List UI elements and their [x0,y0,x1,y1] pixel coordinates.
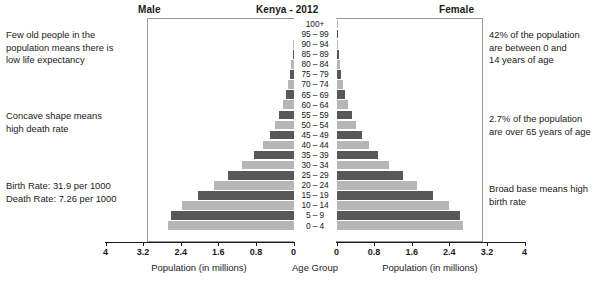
bar-male-6569 [286,90,294,99]
male-side-label: Male [138,4,161,15]
bar-female-6569 [337,90,345,99]
female-axis-line [336,242,525,243]
bar-row [148,90,294,100]
age-group-label: 100+ [294,19,336,29]
bar-row [337,221,483,231]
bar-row [148,180,294,190]
bar-male-3539 [254,151,294,160]
annotation-life-expectancy: Few old people in thepopulation means th… [6,29,146,67]
bar-female-8589 [337,50,339,59]
bar-row [148,59,294,69]
age-group-label: 0 – 4 [294,221,336,231]
age-group-label: 5 – 9 [294,210,336,220]
axis-tick-label: 4 [522,247,527,257]
annotation-line: Broad base means high [489,183,593,196]
age-group-label: 85 – 89 [294,49,336,59]
age-group-label: 65 – 69 [294,90,336,100]
bar-male-5054 [275,121,294,130]
annotation-broad-base: Broad base means highbirth rate [489,183,593,208]
age-group-label: 25 – 29 [294,170,336,180]
bar-male-4549 [270,131,294,140]
annotation-birth-death-rates: Birth Rate: 31.9 per 1000Death Rate: 7.2… [6,180,152,205]
bar-female-4044 [337,141,369,150]
bar-male-5559 [279,111,294,120]
bar-male-1519 [198,191,294,200]
bar-row [337,190,483,200]
axis-tick-label: 3.2 [481,247,494,257]
bar-row [337,180,483,190]
population-pyramid-figure: Male Kenya - 2012 Female 100+95 – 9990 –… [0,0,595,286]
bar-male-6064 [283,100,294,109]
annotation-line: birth rate [489,196,593,209]
bar-row [148,200,294,210]
bar-row [148,29,294,39]
axis-tick-label: 1.6 [405,247,418,257]
female-axis-caption: Population (in millions) [382,262,478,273]
center-axis-caption: Age Group [292,262,338,273]
bar-row [148,49,294,59]
male-axis-line [105,242,294,243]
axis-tick [106,242,107,246]
axis-tick [218,242,219,246]
bar-female-9094 [337,40,338,49]
annotation-line: Few old people in the [6,29,146,42]
axis-tick-label: 2.4 [443,247,456,257]
age-group-label: 95 – 99 [294,29,336,39]
age-group-column: 100+95 – 9990 – 9485 – 8980 – 8475 – 797… [294,18,336,242]
bar-male-2024 [214,181,294,190]
axis-tick-label: 0.8 [368,247,381,257]
age-group-label: 35 – 39 [294,150,336,160]
bar-male-04 [168,221,294,230]
axis-tick-label: 0.8 [250,247,263,257]
axis-tick [337,242,338,246]
axis-tick [525,242,526,246]
age-group-label: 60 – 64 [294,100,336,110]
axis-tick [181,242,182,246]
axis-tick [412,242,413,246]
bar-row [148,100,294,110]
bar-row [148,190,294,200]
axis-tick-label: 0 [291,247,296,257]
annotation-line: high death rate [6,123,146,136]
bar-row [148,110,294,120]
bar-row [337,59,483,69]
female-side-label: Female [439,4,474,15]
bar-row [337,90,483,100]
bar-female-2024 [337,181,417,190]
male-axis-caption: Population (in millions) [151,262,247,273]
bar-female-1014 [337,201,449,210]
age-group-list: 100+95 – 9990 – 9485 – 8980 – 8475 – 797… [294,19,336,241]
bar-female-59 [337,211,460,220]
bar-male-59 [171,211,294,220]
bar-male-2529 [228,171,294,180]
bar-female-5054 [337,121,356,130]
age-group-label: 30 – 34 [294,160,336,170]
age-group-label: 80 – 84 [294,59,336,69]
bar-row [148,39,294,49]
axis-tick-label: 4 [103,247,108,257]
age-group-label: 10 – 14 [294,200,336,210]
bar-row [337,150,483,160]
age-group-label: 55 – 59 [294,110,336,120]
bar-row [148,19,294,29]
bar-female-6064 [337,100,348,109]
annotation-line: Concave shape means [6,110,146,123]
bar-female-2529 [337,171,403,180]
age-group-label: 45 – 49 [294,130,336,140]
annotation-line: population means there is [6,42,146,55]
bar-female-7579 [337,70,341,79]
bar-row [337,100,483,110]
annotation-elderly-percentage: 2.7% of the populationare over 65 years … [489,113,593,138]
age-group-label: 40 – 44 [294,140,336,150]
chart-title: Kenya - 2012 [256,4,318,15]
bar-row [148,170,294,180]
annotation-line: low life expectancy [6,54,146,67]
axis-tick-label: 2.4 [174,247,187,257]
bar-row [337,200,483,210]
annotation-line: 14 years of age [489,54,593,67]
axis-tick [294,242,295,246]
female-bar-group [337,19,483,241]
bar-row [148,160,294,170]
bar-row [148,210,294,220]
annotation-line: 42% of the population [489,29,593,42]
